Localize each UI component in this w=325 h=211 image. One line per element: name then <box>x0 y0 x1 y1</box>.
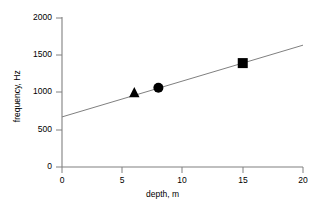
x-axis-title: depth, m <box>0 190 325 199</box>
y-tick-label-1500: 1500 <box>18 50 52 59</box>
trend-line <box>62 45 303 117</box>
y-tick-label-1000: 1000 <box>18 87 52 96</box>
y-tick-label-0: 0 <box>18 162 52 171</box>
x-tick-label-0: 0 <box>47 176 77 185</box>
y-tick-label-2000: 2000 <box>18 13 52 22</box>
x-axis-ticks <box>62 167 303 173</box>
x-tick-label-10: 10 <box>167 176 197 185</box>
y-tick-label-500: 500 <box>18 125 52 134</box>
y-axis-title: frequency, Hz <box>13 41 22 151</box>
data-point-circle <box>153 83 163 93</box>
x-tick-label-15: 15 <box>228 176 258 185</box>
data-point-triangle <box>129 87 139 97</box>
x-tick-label-5: 5 <box>107 176 137 185</box>
chart-container: 2000 1500 1000 500 0 0 5 10 15 20 depth,… <box>0 0 325 211</box>
y-axis-ticks <box>56 18 62 167</box>
x-tick-label-20: 20 <box>288 176 318 185</box>
data-point-square <box>238 58 248 68</box>
